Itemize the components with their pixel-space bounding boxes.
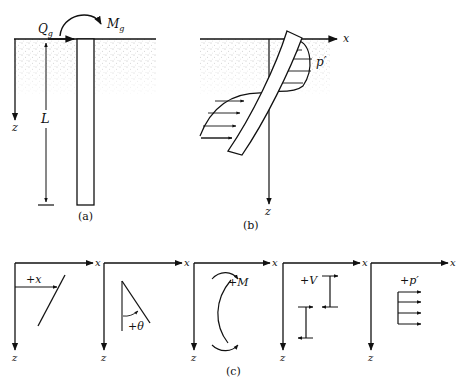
pile (77, 39, 94, 205)
pile-lateral-load-diagram: z Qg Mg L (a) x z p′ (b) (0, 0, 459, 392)
shear-label: Qg (38, 22, 53, 38)
svg-text:z: z (100, 352, 107, 363)
z-axis-label: z (264, 205, 271, 218)
svg-text:z: z (11, 352, 18, 363)
caption-b: (b) (243, 219, 259, 232)
z-axis-label: z (11, 121, 18, 134)
caption-a: (a) (78, 210, 93, 223)
panel-slope: x z +θ (100, 257, 190, 363)
moment-label: Mg (106, 17, 124, 33)
pressure-label: p′ (316, 55, 327, 69)
length-label: L (40, 111, 50, 126)
moment-label: +M (228, 276, 249, 289)
svg-text:x: x (95, 257, 101, 268)
svg-text:x: x (184, 257, 190, 268)
slope-label: +θ (128, 320, 144, 333)
svg-text:x: x (362, 257, 368, 268)
svg-text:z: z (279, 352, 286, 363)
x-axis-label: x (343, 32, 350, 45)
moment-arrow (60, 15, 101, 36)
figure-a: z Qg Mg L (a) (11, 15, 156, 223)
figure-b: x z p′ (b) (200, 31, 350, 232)
figure-c: x z +x x z +θ x z +M (11, 257, 456, 378)
svg-text:z: z (190, 352, 197, 363)
deflection-label: +x (26, 273, 42, 286)
panel-pressure: x z +p′ (367, 257, 456, 363)
panel-deflection: x z +x (11, 257, 101, 363)
svg-text:x: x (450, 257, 456, 268)
panel-moment: x z +M (190, 257, 278, 363)
svg-text:x: x (272, 257, 278, 268)
panel-shear: x z +V (279, 257, 368, 363)
caption-c: (c) (226, 365, 241, 378)
shear-label: +V (300, 274, 318, 287)
pressure-label: +p′ (400, 274, 419, 287)
svg-text:z: z (367, 352, 374, 363)
